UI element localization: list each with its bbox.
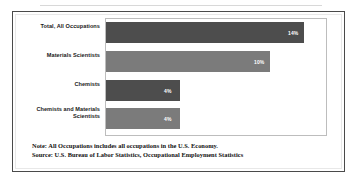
bar-value-label-total-all-occupations: 14% <box>288 30 298 36</box>
bar-materials-scientists <box>106 51 270 72</box>
bar-row: 4% <box>106 108 328 129</box>
footnote-source: Source: U.S. Bureau of Labor Statistics,… <box>32 151 322 160</box>
chart-footnotes: Note: All Occupations includes all occup… <box>32 142 322 159</box>
scan-artifact-line <box>40 5 322 6</box>
bar-value-label-materials-scientists: 10% <box>254 59 264 65</box>
category-label-chemists: Chemists <box>12 81 100 88</box>
bar-value-label-chemists: 4% <box>164 88 171 94</box>
category-label-materials-scientists: Materials Scientists <box>12 52 100 59</box>
bar-total-all-occupations <box>106 22 304 43</box>
bar-row: 4% <box>106 80 328 101</box>
category-axis-labels: Total, All Occupations Materials Scienti… <box>14 18 103 136</box>
bar-row: 10% <box>106 51 328 72</box>
bar-row: 14% <box>106 22 328 43</box>
footnote-note: Note: All Occupations includes all occup… <box>32 142 322 151</box>
chart-figure: Total, All Occupations Materials Scienti… <box>0 0 359 181</box>
bar-value-label-chemists-and-materials-scientists: 4% <box>164 116 171 122</box>
category-label-total-all-occupations: Total, All Occupations <box>12 23 100 30</box>
category-label-chemists-and-materials-scientists: Chemists and Materials Scientists <box>12 106 100 121</box>
bars-layer: 14% 10% 4% 4% <box>105 18 327 136</box>
